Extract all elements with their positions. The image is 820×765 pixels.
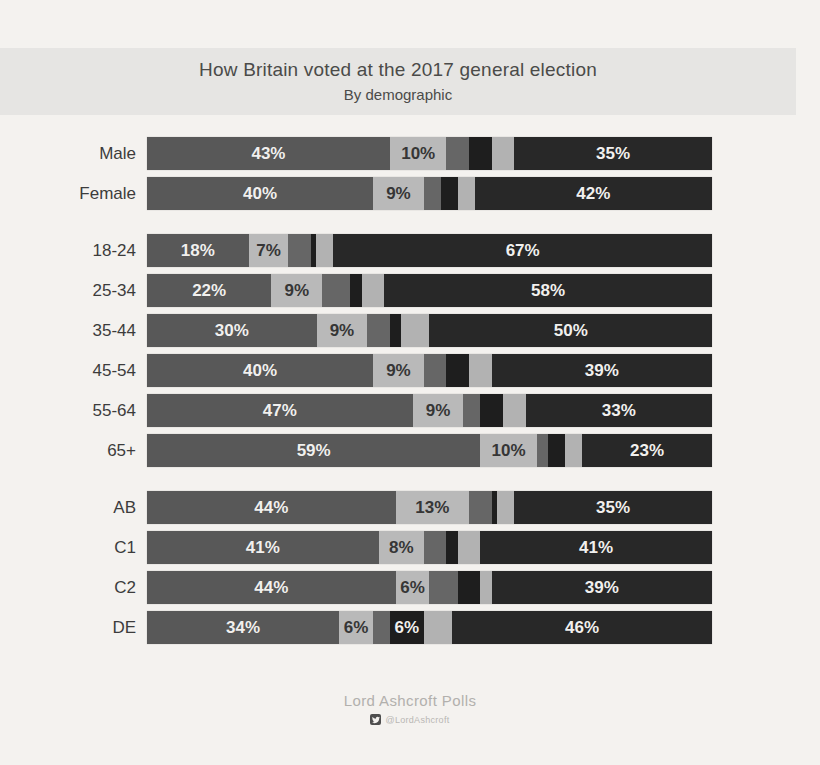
segment-value-label: 6%: [344, 618, 369, 638]
stacked-bar: 43%10%35%: [147, 137, 712, 170]
bar-segment: 9%: [413, 394, 464, 427]
bar-row: 18-2418%7%67%: [0, 234, 820, 267]
twitter-bird-icon: [370, 714, 381, 725]
bar-segment: [424, 354, 447, 387]
row-label: C2: [0, 578, 147, 598]
bar-segment: [424, 177, 441, 210]
twitter-handle: @LordAshcroft: [385, 715, 449, 725]
bar-segment: 39%: [492, 571, 712, 604]
bar-segment: 46%: [452, 611, 712, 644]
segment-value-label: 67%: [506, 241, 540, 261]
row-label: 25-34: [0, 281, 147, 301]
bar-segment: 10%: [390, 137, 447, 170]
bar-segment: [458, 177, 475, 210]
bar-segment: 58%: [384, 274, 712, 307]
bar-segment: [565, 434, 582, 467]
row-label: 18-24: [0, 241, 147, 261]
bar-segment: [429, 571, 457, 604]
bar-segment: 22%: [147, 274, 271, 307]
segment-value-label: 46%: [565, 618, 599, 638]
segment-value-label: 40%: [243, 361, 277, 381]
segment-value-label: 58%: [531, 281, 565, 301]
source-name: Lord Ashcroft Polls: [0, 692, 820, 709]
bar-segment: 8%: [379, 531, 424, 564]
segment-value-label: 35%: [596, 498, 630, 518]
row-label: C1: [0, 538, 147, 558]
bar-segment: 7%: [249, 234, 289, 267]
demographic-group-social-grade: AB44%13%35%C141%8%41%C244%6%39%DE34%6%6%…: [0, 491, 820, 644]
bar-segment: 9%: [271, 274, 322, 307]
bar-segment: 6%: [390, 611, 424, 644]
segment-value-label: 30%: [215, 321, 249, 341]
row-label: 65+: [0, 441, 147, 461]
segment-value-label: 47%: [263, 401, 297, 421]
row-label: Female: [0, 184, 147, 204]
bar-segment: 13%: [396, 491, 469, 524]
segment-value-label: 22%: [192, 281, 226, 301]
stacked-bar: 41%8%41%: [147, 531, 712, 564]
bar-segment: [548, 434, 565, 467]
bar-segment: 41%: [147, 531, 379, 564]
segment-value-label: 9%: [386, 184, 411, 204]
row-label: 35-44: [0, 321, 147, 341]
bar-segment: 40%: [147, 354, 373, 387]
segment-value-label: 33%: [602, 401, 636, 421]
bar-segment: [458, 571, 481, 604]
row-label: 45-54: [0, 361, 147, 381]
bar-segment: 6%: [396, 571, 430, 604]
bar-segment: [441, 177, 458, 210]
bar-segment: 23%: [582, 434, 712, 467]
bar-segment: 6%: [339, 611, 373, 644]
bar-segment: [424, 531, 447, 564]
bar-segment: 41%: [480, 531, 712, 564]
bar-segment: [362, 274, 385, 307]
chart-title: How Britain voted at the 2017 general el…: [0, 59, 796, 81]
bar-segment: [401, 314, 429, 347]
stacked-bar: 47%9%33%: [147, 394, 712, 427]
bar-segment: 42%: [475, 177, 712, 210]
bar-segment: [503, 394, 526, 427]
segment-value-label: 6%: [400, 578, 425, 598]
segment-value-label: 9%: [330, 321, 355, 341]
bar-segment: [469, 354, 492, 387]
bar-segment: 44%: [147, 571, 396, 604]
stacked-bar: 59%10%23%: [147, 434, 712, 467]
stacked-bar: 18%7%67%: [147, 234, 712, 267]
bar-segment: 50%: [429, 314, 712, 347]
segment-value-label: 40%: [243, 184, 277, 204]
segment-value-label: 9%: [284, 281, 309, 301]
demographic-group-age: 18-2418%7%67%25-3422%9%58%35-4430%9%50%4…: [0, 234, 820, 467]
bar-row: AB44%13%35%: [0, 491, 820, 524]
segment-value-label: 39%: [585, 578, 619, 598]
bar-segment: 47%: [147, 394, 413, 427]
bar-segment: [480, 571, 491, 604]
stacked-bar: 40%9%39%: [147, 354, 712, 387]
stacked-bar: 34%6%6%46%: [147, 611, 712, 644]
segment-value-label: 41%: [579, 538, 613, 558]
bar-segment: 10%: [480, 434, 537, 467]
segment-value-label: 41%: [246, 538, 280, 558]
bar-segment: 40%: [147, 177, 373, 210]
bar-segment: [350, 274, 361, 307]
bar-segment: [424, 611, 452, 644]
bar-segment: [390, 314, 401, 347]
segment-value-label: 39%: [585, 361, 619, 381]
bar-segment: 9%: [317, 314, 368, 347]
stacked-bar: 40%9%42%: [147, 177, 712, 210]
row-label: DE: [0, 618, 147, 638]
row-label: Male: [0, 144, 147, 164]
segment-value-label: 35%: [596, 144, 630, 164]
segment-value-label: 7%: [256, 241, 281, 261]
segment-value-label: 44%: [254, 498, 288, 518]
bar-segment: 33%: [526, 394, 712, 427]
bar-row: C141%8%41%: [0, 531, 820, 564]
segment-value-label: 8%: [389, 538, 414, 558]
bar-segment: [367, 314, 390, 347]
segment-value-label: 9%: [386, 361, 411, 381]
bar-segment: [288, 234, 311, 267]
segment-value-label: 10%: [401, 144, 435, 164]
segment-value-label: 34%: [226, 618, 260, 638]
bar-segment: [316, 234, 333, 267]
bar-segment: 35%: [514, 491, 712, 524]
bar-row: 55-6447%9%33%: [0, 394, 820, 427]
